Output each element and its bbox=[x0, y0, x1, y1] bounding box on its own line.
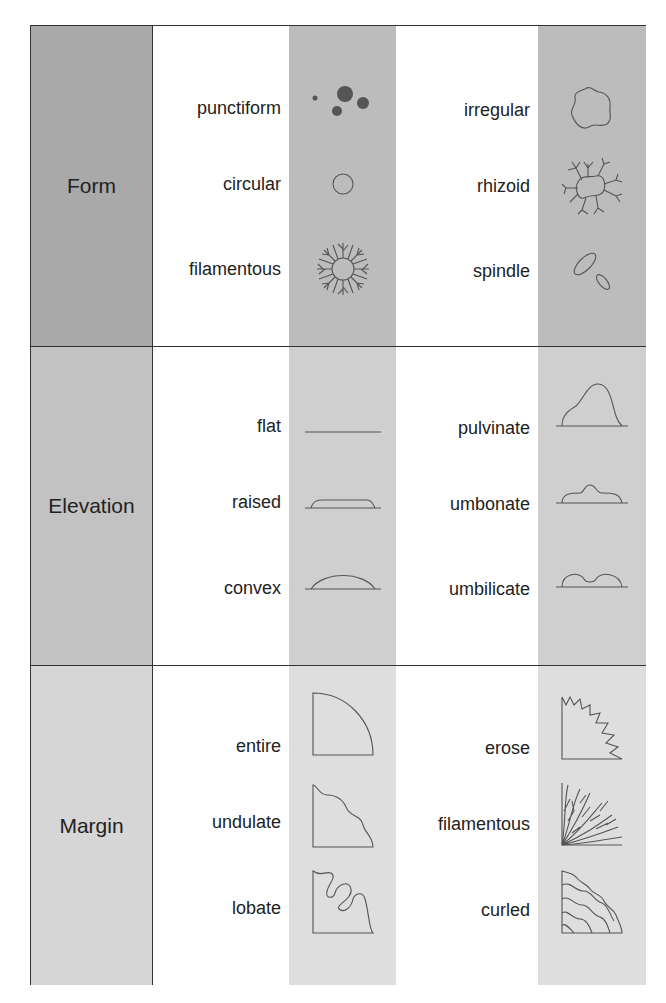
term-label: raised bbox=[232, 492, 281, 513]
umbilicate-icon bbox=[554, 567, 630, 589]
flat-icon bbox=[303, 428, 383, 436]
term-label: spindle bbox=[473, 261, 530, 282]
section-title: Margin bbox=[59, 814, 123, 838]
term-label: convex bbox=[224, 578, 281, 599]
term-label: irregular bbox=[464, 100, 530, 121]
section-margin: Margin entire undulate lobate erose fila… bbox=[31, 665, 645, 985]
filamentous-margin-icon bbox=[560, 781, 624, 847]
curled-icon bbox=[560, 869, 624, 935]
term-label: umbonate bbox=[450, 494, 530, 515]
term-label: erose bbox=[485, 738, 530, 759]
term-label: punctiform bbox=[197, 98, 281, 119]
punctiform-icon bbox=[308, 84, 378, 124]
term-label: umbilicate bbox=[449, 579, 530, 600]
undulate-icon bbox=[311, 783, 375, 849]
term-label: filamentous bbox=[438, 814, 530, 835]
circular-icon bbox=[330, 171, 356, 197]
term-label: undulate bbox=[212, 812, 281, 833]
term-label: filamentous bbox=[189, 259, 281, 280]
section-elevation: Elevation flat raised convex pulvinate u… bbox=[31, 346, 645, 665]
raised-icon bbox=[303, 495, 383, 511]
umbonate-icon bbox=[554, 481, 630, 505]
irregular-icon bbox=[567, 83, 617, 133]
term-label: circular bbox=[223, 174, 281, 195]
lobate-icon bbox=[311, 869, 375, 935]
section-title: Form bbox=[67, 174, 116, 198]
spindle-icon bbox=[567, 246, 617, 296]
term-label: pulvinate bbox=[458, 418, 530, 439]
pulvinate-icon bbox=[554, 380, 630, 430]
section-form: Form punctiform circular filamentous bbox=[31, 26, 645, 346]
term-label: lobate bbox=[232, 898, 281, 919]
erose-icon bbox=[560, 695, 624, 761]
section-title: Elevation bbox=[48, 494, 134, 518]
term-label: curled bbox=[481, 900, 530, 921]
morphology-table: Form punctiform circular filamentous bbox=[30, 25, 646, 985]
term-label: entire bbox=[236, 736, 281, 757]
convex-icon bbox=[303, 569, 383, 593]
entire-icon bbox=[311, 691, 375, 757]
term-label: rhizoid bbox=[477, 176, 530, 197]
rhizoid-icon bbox=[560, 154, 624, 218]
term-label: flat bbox=[257, 416, 281, 437]
filamentous-form-icon bbox=[313, 239, 373, 299]
